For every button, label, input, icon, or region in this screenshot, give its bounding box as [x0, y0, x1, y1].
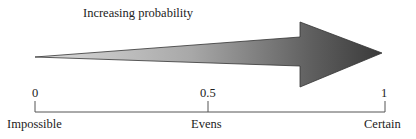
tick-value-0-5: 0.5 [200, 87, 216, 100]
increasing-probability-arrow [35, 22, 382, 87]
tick-value-1: 1 [381, 87, 387, 100]
label-certain: Certain [364, 118, 401, 131]
label-evens: Evens [191, 118, 222, 131]
probability-scale-axis [35, 101, 385, 112]
tick-value-0: 0 [32, 87, 38, 100]
label-impossible: Impossible [7, 118, 62, 131]
